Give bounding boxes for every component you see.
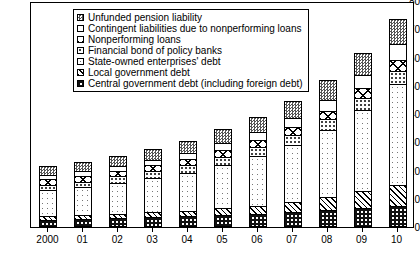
bar-segment [354,191,372,208]
legend-swatch-icon [77,36,84,43]
bar-segment [74,176,92,181]
bar-segment [284,145,302,202]
x-axis-tick-label: 2000 [36,234,58,245]
x-axis-tick-label: 04 [182,234,193,245]
x-axis-tick-mark [117,228,118,232]
bar-07[interactable] [284,101,302,228]
legend-swatch-icon [77,14,84,21]
legend-label: Central government debt (including forei… [88,78,303,89]
legend-item: Contingent liabilities due to nonperform… [77,23,303,34]
bar-segment [39,216,57,219]
bar-segment [249,156,267,205]
bar-segment [74,187,92,215]
bar-segment [249,140,267,147]
bar-06[interactable] [249,117,267,227]
x-axis-tick-label: 06 [251,234,262,245]
bar-segment [74,171,92,176]
bar-segment [144,178,162,212]
bar-segment [284,101,302,119]
bar-segment [389,84,407,184]
bar-segment [284,212,302,227]
legend-swatch-icon [77,69,84,76]
bar-segment [109,166,127,171]
legend-item: Unfunded pension liability [77,12,303,23]
bar-10[interactable] [389,19,407,227]
bar-segment [39,179,57,184]
x-axis-tick-mark [222,228,223,232]
bar-segment [144,171,162,178]
bar-segment [214,157,232,165]
bar-segment [214,215,232,227]
bar-segment [144,160,162,166]
bar-segment [354,110,372,191]
bar-segment [109,156,127,166]
bar-segment [249,147,267,156]
bar-segment [109,176,127,182]
bar-segment [74,182,92,188]
bar-segment [354,98,372,110]
bar-segment [39,185,57,190]
bar-03[interactable] [144,149,162,227]
bar-segment [249,132,267,140]
bar-segment [144,212,162,217]
bar-segment [354,53,372,75]
legend-swatch-icon [77,47,84,54]
legend-label: Local government debt [88,67,190,78]
bar-segment [389,60,407,71]
x-axis-tick-label: 10 [391,234,402,245]
bar-segment [319,130,337,197]
x-axis-tick-mark [257,228,258,232]
bar-segment [179,165,197,172]
bar-segment [284,118,302,127]
bar-segment [144,149,162,160]
stacked-bar-chart: 01020304050607080 Unfunded pension liabi… [0,0,420,259]
legend-label: Contingent liabilities due to nonperform… [88,23,301,34]
x-axis-tick-label: 08 [321,234,332,245]
x-axis-tick-mark [82,228,83,232]
x-axis-tick-mark [397,228,398,232]
bar-segment [389,71,407,85]
bar-segment [389,19,407,44]
bar-segment [389,44,407,60]
bar-segment [109,171,127,177]
bar-segment [284,127,302,135]
bar-segment [74,162,92,171]
x-axis-tick-mark [362,228,363,232]
bar-segment [39,166,57,174]
legend-item: Local government debt [77,67,303,78]
legend-swatch-icon [77,80,84,87]
bar-segment [39,220,57,227]
x-axis-tick-label: 07 [286,234,297,245]
x-axis-tick-mark [327,228,328,232]
bar-segment [319,119,337,130]
bar-08[interactable] [319,80,337,227]
bar-segment [389,206,407,227]
bar-segment [179,153,197,159]
bar-2000[interactable] [39,166,57,227]
legend-label: Unfunded pension liability [88,12,202,23]
legend-item: Financial bond of policy banks [77,45,303,56]
bar-segment [144,217,162,227]
bar-02[interactable] [109,156,127,227]
bar-segment [319,100,337,111]
legend-item: State-owned enterprises' debt [77,56,303,67]
bar-segment [284,135,302,145]
bar-09[interactable] [354,53,372,227]
chart-legend: Unfunded pension liabilityContingent lia… [73,9,309,92]
bar-segment [109,214,127,218]
bar-segment [249,117,267,133]
bar-segment [74,219,92,227]
bar-01[interactable] [74,162,92,227]
bar-segment [389,185,407,207]
plot-area: Unfunded pension liabilityContingent lia… [30,2,414,228]
bar-05[interactable] [214,129,232,227]
legend-swatch-icon [77,25,84,32]
bar-04[interactable] [179,141,197,227]
bar-segment [214,150,232,157]
x-axis-tick-mark [187,228,188,232]
legend-item: Nonperforming loans [77,34,303,45]
bar-segment [319,111,337,120]
bar-segment [319,80,337,100]
legend-label: Financial bond of policy banks [88,45,222,56]
legend-swatch-icon [77,58,84,65]
